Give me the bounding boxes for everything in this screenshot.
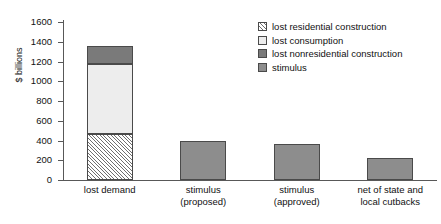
legend-swatch-icon: [258, 49, 267, 58]
legend-label: lost nonresidential construction: [272, 48, 402, 59]
legend-item[interactable]: lost consumption: [258, 34, 402, 48]
bar-segment[interactable]: [87, 64, 133, 133]
bar-segment[interactable]: [87, 134, 133, 180]
y-tick-label: 1200: [8, 56, 52, 67]
bar-chart: $ billions 02004006008001000120014001600…: [0, 0, 441, 224]
y-tick-label: 600: [8, 115, 52, 126]
x-axis-label-line: lost demand: [63, 184, 157, 196]
y-tick-label: 0: [8, 174, 52, 185]
x-axis-label: stimulus(approved): [250, 184, 344, 207]
y-tick-label: 1600: [8, 16, 52, 27]
legend-swatch-icon: [258, 36, 267, 45]
legend-label: lost residential construction: [272, 21, 387, 32]
bar-segment[interactable]: [87, 46, 133, 65]
legend-swatch-icon: [258, 63, 267, 72]
legend-label: stimulus: [272, 62, 307, 73]
legend-swatch-icon: [258, 22, 267, 31]
legend-item[interactable]: stimulus: [258, 61, 402, 75]
x-axis-label: stimulus(proposed): [157, 184, 251, 207]
legend: lost residential constructionlost consum…: [258, 20, 402, 74]
y-tick-label: 1400: [8, 36, 52, 47]
x-axis-line: [63, 180, 437, 181]
x-axis-label-line: (proposed): [157, 196, 251, 208]
bar-segment[interactable]: [367, 158, 413, 180]
x-axis-label-line: (approved): [250, 196, 344, 208]
y-tick-label: 400: [8, 135, 52, 146]
bar-segment[interactable]: [180, 141, 226, 181]
x-axis-label-line: stimulus: [157, 184, 251, 196]
legend-label: lost consumption: [272, 35, 343, 46]
legend-item[interactable]: lost residential construction: [258, 20, 402, 34]
x-axis-label-line: stimulus: [250, 184, 344, 196]
y-tick-label: 200: [8, 154, 52, 165]
x-axis-label: net of state andlocal cutbacks: [344, 184, 438, 207]
legend-item[interactable]: lost nonresidential construction: [258, 47, 402, 61]
x-axis-label-line: net of state and: [344, 184, 438, 196]
bar-group: [63, 20, 157, 180]
x-axis-labels: lost demandstimulus(proposed)stimulus(ap…: [63, 184, 437, 222]
y-tick-label: 1000: [8, 75, 52, 86]
y-tick-label: 800: [8, 95, 52, 106]
bar-segment[interactable]: [274, 144, 320, 180]
bar-group: [157, 20, 251, 180]
x-axis-label: lost demand: [63, 184, 157, 196]
x-axis-label-line: local cutbacks: [344, 196, 438, 208]
